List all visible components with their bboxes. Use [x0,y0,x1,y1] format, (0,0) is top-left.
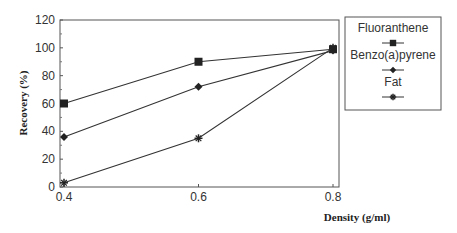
legend-label: Fat [384,75,402,89]
y-tick-label: 0 [48,180,55,194]
x-tick-label: 0.8 [325,190,342,204]
series-line [64,49,333,103]
y-axis-label: Recovery (%) [17,70,30,135]
y-tick-label: 60 [42,97,56,111]
legend: FluorantheneBenzo(a)pyreneFat [345,17,441,110]
y-tick-label: 80 [42,69,56,83]
square-marker [60,100,68,108]
plot-frame [60,20,339,187]
series-line [64,48,333,183]
x-tick-label: 0.4 [56,190,73,204]
y-tick-label: 40 [42,124,56,138]
y-tick-label: 20 [42,152,56,166]
series-fluoranthene [60,45,337,107]
diamond-marker [195,83,203,91]
legend-label: Fluoranthene [358,21,429,35]
y-tick-label: 120 [35,13,55,27]
legend-label: Benzo(a)pyrene [350,48,436,62]
square-marker [195,58,203,66]
diamond-marker [60,133,68,141]
plot-area: 0204060801001200.40.60.8 [35,13,342,204]
square-marker [390,40,396,46]
y-tick-label: 100 [35,41,55,55]
x-axis-label: Density (g/ml) [324,211,391,224]
x-tick-label: 0.6 [190,190,207,204]
chart: 0204060801001200.40.60.8 Recovery (%) De… [0,0,457,233]
